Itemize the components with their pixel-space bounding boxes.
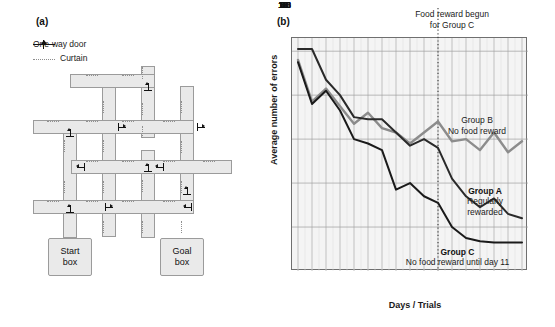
one-way-door-icon — [144, 163, 152, 172]
one-way-door-icon — [183, 203, 193, 211]
curtain-marker — [163, 161, 175, 162]
panel-a-maze: (a) One-way door Curtain Startbox — [0, 0, 275, 327]
start-box: Startbox — [48, 238, 92, 276]
group-b-desc: No food reward — [427, 126, 527, 137]
legend-one-way-door: One-way door — [33, 39, 86, 49]
curtain-icon — [33, 59, 55, 61]
curtain-marker — [181, 101, 182, 113]
curtain-marker — [203, 161, 215, 162]
one-way-door-icon — [183, 186, 191, 195]
curtain-marker — [103, 221, 104, 233]
curtain-marker — [181, 221, 182, 233]
one-way-door-icon — [144, 82, 152, 91]
figure-root: (a) One-way door Curtain Startbox — [0, 0, 555, 327]
curtain-marker — [122, 75, 134, 76]
maze-corridor-v — [63, 122, 77, 238]
one-way-door-icon — [104, 203, 114, 211]
curtain-marker — [142, 103, 143, 115]
start-box-label: Startbox — [60, 246, 79, 268]
curtain-marker — [86, 161, 98, 162]
one-way-door-icon — [66, 204, 74, 213]
plot-area — [291, 37, 527, 270]
chart-svg — [292, 38, 528, 271]
one-way-door-icon — [76, 163, 86, 171]
group-a-desc-line1: Regularly — [443, 196, 527, 207]
one-way-door-icon — [196, 123, 206, 131]
group-a-label: Group A Regularly rewarded — [443, 186, 527, 217]
curtain-marker — [122, 161, 134, 162]
curtain-marker — [86, 201, 98, 202]
curtain-marker — [163, 121, 175, 122]
one-way-door-icon — [117, 123, 127, 131]
panel-a-label: (a) — [36, 16, 48, 27]
curtain-marker — [122, 121, 134, 122]
panel-b-label: (b) — [277, 16, 290, 27]
group-a-desc-line2: rewarded — [443, 207, 527, 218]
curtain-marker — [142, 221, 143, 233]
food-reward-annotation: Food reward begun for Group C — [387, 9, 517, 30]
one-way-door-icon — [155, 163, 165, 171]
curtain-marker — [103, 140, 104, 152]
curtain-marker — [103, 181, 104, 193]
goal-box-label: Goalbox — [172, 246, 191, 268]
group-c-name: Group C — [385, 247, 530, 257]
curtain-marker — [181, 181, 182, 193]
curtain-marker — [122, 201, 134, 202]
x-axis-title: Days / Trials — [275, 300, 555, 310]
legend-label-curtain: Curtain — [60, 53, 87, 63]
group-b-name: Group B — [427, 115, 527, 126]
curtain-marker — [47, 121, 59, 122]
curtain-marker — [142, 126, 143, 138]
legend-label-one-way-door: One-way door — [33, 39, 86, 49]
legend-curtain: Curtain — [33, 53, 87, 63]
curtain-marker — [142, 67, 143, 79]
curtain-marker — [64, 181, 65, 193]
food-reward-annotation-line2: for Group C — [387, 20, 517, 31]
curtain-marker — [86, 75, 98, 76]
maze-corridor-v — [180, 86, 194, 202]
one-way-door-icon — [66, 128, 74, 137]
maze-corridor-h — [33, 120, 194, 134]
group-a-name: Group A — [443, 186, 527, 196]
curtain-marker — [163, 201, 175, 202]
group-c-label: Group C No food reward until day 11 — [385, 247, 530, 268]
curtain-marker — [86, 121, 98, 122]
curtain-marker — [64, 140, 65, 152]
curtain-marker — [142, 180, 143, 192]
curtain-marker — [181, 141, 182, 153]
x-tick-label: 17 — [275, 0, 291, 10]
y-axis-title: Average number of errors — [269, 55, 279, 165]
curtain-marker — [103, 101, 104, 113]
goal-box: Goalbox — [160, 238, 204, 276]
panel-b-chart: (b) Average number of errors Food reward… — [275, 0, 555, 327]
group-c-desc: No food reward until day 11 — [385, 257, 530, 268]
curtain-marker — [47, 201, 59, 202]
food-reward-annotation-line1: Food reward begun — [387, 9, 517, 20]
group-b-label: Group B No food reward — [427, 115, 527, 136]
